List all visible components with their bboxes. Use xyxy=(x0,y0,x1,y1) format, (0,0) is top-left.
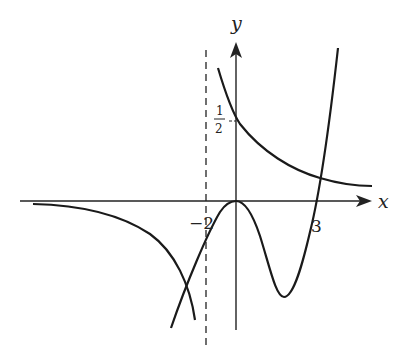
x-axis-label: x xyxy=(378,190,389,212)
half-denominator: 2 xyxy=(215,122,223,136)
y-axis xyxy=(230,42,242,330)
x-axis xyxy=(20,195,372,207)
neg-two-label: −2 xyxy=(189,213,214,233)
function-graph: y x 1 2 −2 3 xyxy=(0,0,401,348)
hyperbola-right-branch xyxy=(218,68,372,186)
half-label: 1 2 xyxy=(214,104,225,136)
hyperbola-left-branch xyxy=(33,204,195,320)
three-label: 3 xyxy=(311,216,322,236)
polynomial-curve xyxy=(171,48,338,328)
y-axis-label: y xyxy=(230,12,242,34)
half-numerator: 1 xyxy=(216,104,224,118)
